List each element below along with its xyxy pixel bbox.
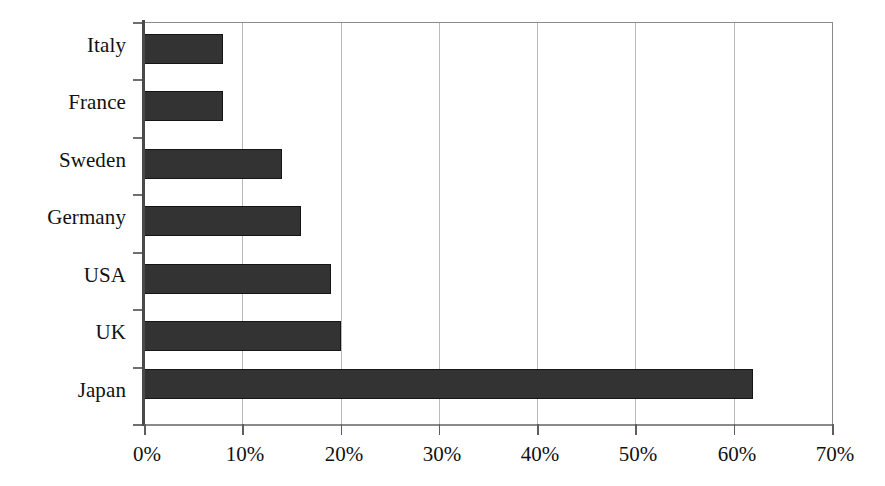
category-label-germany: Germany: [0, 207, 126, 228]
value-tick-50: [635, 424, 637, 435]
gridline-60: [734, 23, 735, 425]
value-label-40: 40%: [521, 443, 560, 465]
value-label-60: 60%: [718, 443, 757, 465]
value-tick-30: [439, 424, 441, 435]
gridline-50: [635, 23, 636, 425]
value-tick-0: [144, 424, 146, 435]
category-label-italy: Italy: [0, 35, 126, 56]
gridline-40: [537, 23, 538, 425]
value-label-50: 50%: [619, 443, 658, 465]
category-axis-spine: [144, 424, 834, 426]
gridline-20: [341, 23, 342, 425]
bar-japan: [144, 369, 753, 399]
value-label-10: 10%: [226, 443, 265, 465]
category-label-france: France: [0, 92, 126, 113]
bar-chart: Italy France Sweden Germany USA UK Japan: [0, 0, 885, 486]
value-label-70: 70%: [816, 443, 855, 465]
value-axis-labels: 0% 10% 20% 30% 40% 50% 60% 70%: [0, 443, 885, 475]
value-tick-40: [537, 424, 539, 435]
category-axis-labels: Italy France Sweden Germany USA UK Japan: [0, 22, 126, 424]
plot-area: [144, 22, 833, 425]
value-tick-70: [832, 424, 834, 435]
bar-germany: [144, 206, 301, 236]
bar-usa: [144, 264, 331, 294]
value-tick-10: [242, 424, 244, 435]
category-label-usa: USA: [0, 265, 126, 286]
value-tick-60: [734, 424, 736, 435]
value-label-20: 20%: [325, 443, 364, 465]
category-label-sweden: Sweden: [0, 150, 126, 171]
category-label-uk: UK: [0, 322, 126, 343]
bar-france: [144, 91, 223, 121]
value-label-30: 30%: [423, 443, 462, 465]
value-tick-20: [341, 424, 343, 435]
gridline-30: [439, 23, 440, 425]
value-axis-spine: [142, 20, 145, 426]
bar-uk: [144, 321, 341, 351]
value-label-0: 0%: [133, 443, 161, 465]
category-label-japan: Japan: [0, 380, 126, 401]
bar-italy: [144, 34, 223, 64]
bar-sweden: [144, 149, 282, 179]
